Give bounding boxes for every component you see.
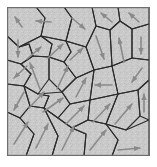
panel-fill: [7, 7, 150, 156]
grain-structure-svg: [0, 0, 157, 167]
grain-structure-figure: Polycrystalline grain structure with gra…: [0, 0, 157, 167]
grain-orientation-arrow: [36, 21, 51, 22]
